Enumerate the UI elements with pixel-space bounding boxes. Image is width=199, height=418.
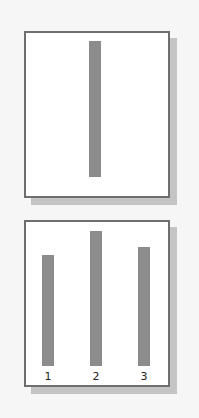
bar-1 [42, 255, 54, 366]
three-bar-panel: 1 2 3 [24, 220, 170, 387]
bar-2-label: 2 [90, 370, 102, 383]
bar-3-label: 3 [138, 370, 150, 383]
single-bar-panel [24, 31, 170, 198]
tall-bar [89, 41, 101, 177]
bar-2 [90, 231, 102, 366]
bar-1-label: 1 [42, 370, 54, 383]
bar-3 [138, 247, 150, 366]
